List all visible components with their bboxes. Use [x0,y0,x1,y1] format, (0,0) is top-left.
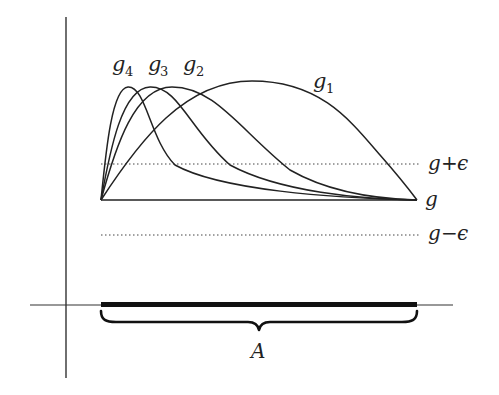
set-a-brace [101,311,417,330]
label-lower-eps: ϵ [457,221,468,245]
set-a-bar [101,302,417,307]
label-upper-g: g [428,151,441,175]
label-g1-sub: 1 [326,81,334,96]
label-lower-g: g [428,221,441,245]
label-g3: g 3 [148,52,168,79]
label-g-plus-epsilon: g + ϵ [428,151,468,175]
label-g-minus-epsilon: g − ϵ [428,221,468,245]
label-g-baseline: g [425,187,438,211]
label-set-a: A [249,339,265,363]
label-g1-main: g [313,69,326,93]
label-upper-op: + [441,151,458,175]
convergence-diagram: g 4 g 3 g 2 g 1 g + ϵ g g − ϵ A [0,0,499,395]
label-g2-main: g [183,52,196,76]
label-g2: g 2 [183,52,204,79]
label-g4-main: g [112,52,125,76]
label-g3-sub: 3 [160,64,168,79]
label-g2-sub: 2 [196,64,204,79]
label-g1: g 1 [313,69,334,96]
label-g4: g 4 [112,52,133,79]
label-lower-op: − [441,221,458,245]
label-g4-sub: 4 [125,64,133,79]
curve-g1 [101,81,417,200]
label-upper-eps: ϵ [457,151,468,175]
